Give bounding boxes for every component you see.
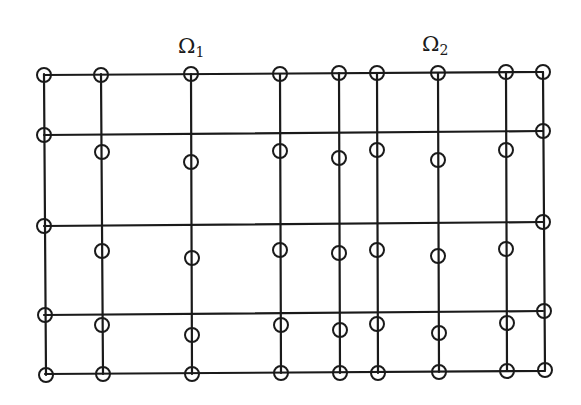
omega-symbol: Ω <box>178 34 195 58</box>
horizontal-grid-line <box>44 131 543 135</box>
horizontal-grid-line <box>44 72 543 75</box>
domain-decomposition-grid-figure: Ω1 Ω2 <box>0 0 581 405</box>
vertical-grid-line <box>377 73 378 373</box>
horizontal-grid-lines <box>44 72 545 374</box>
subdomain-label-omega-2: Ω2 <box>422 34 448 57</box>
vertical-grid-line <box>506 72 507 371</box>
horizontal-grid-line <box>45 371 545 374</box>
omega-symbol: Ω <box>422 32 439 56</box>
horizontal-grid-line <box>44 222 543 226</box>
vertical-grid-line <box>438 73 439 372</box>
vertical-grid-line <box>543 72 545 370</box>
vertical-grid-line <box>280 74 281 373</box>
subscript: 1 <box>195 44 204 60</box>
grid-diagram <box>0 0 581 405</box>
horizontal-grid-line <box>44 311 543 315</box>
vertical-grid-line <box>101 74 103 374</box>
subdomain-label-omega-1: Ω1 <box>178 36 204 59</box>
vertical-grid-line <box>44 74 46 375</box>
vertical-grid-line <box>339 73 340 373</box>
subscript: 2 <box>439 42 448 58</box>
